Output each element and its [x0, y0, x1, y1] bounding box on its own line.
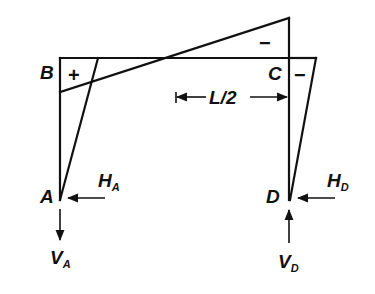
joint-label-a: A: [39, 186, 54, 207]
moment-line-beam: [60, 18, 289, 92]
reaction-label-va: VA: [50, 247, 71, 270]
reaction-label-hd: HD: [327, 170, 349, 193]
reaction-label-ha: HA: [98, 170, 120, 193]
joint-label-d: D: [266, 186, 280, 207]
ha-sub: A: [111, 181, 120, 193]
dimension-label-2: 2: [225, 87, 237, 108]
joint-label-b: B: [40, 62, 54, 83]
vd-sub: D: [291, 262, 299, 274]
sign-minus-beam: −: [259, 32, 271, 54]
dimension-label: L/2: [209, 87, 237, 108]
dimension-label-l: L: [209, 87, 221, 108]
sign-plus: +: [68, 64, 80, 86]
sign-minus-column: −: [294, 64, 306, 86]
hd-sub: D: [341, 181, 349, 193]
joint-label-c: C: [268, 63, 282, 84]
va-sub: A: [62, 258, 71, 270]
reaction-label-vd: VD: [278, 251, 299, 274]
frame-diagram: + − − B C A D L/2 HA VA HD VD: [0, 0, 375, 294]
